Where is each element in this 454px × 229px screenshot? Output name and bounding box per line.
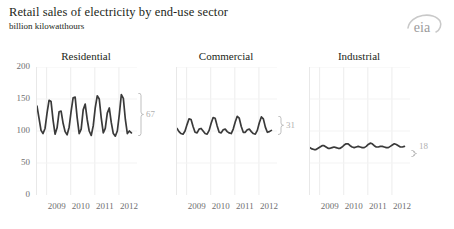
panel-industrial: Industrial182009201020112012 <box>309 50 409 220</box>
ytick-0: 0 <box>4 189 30 199</box>
ytick-50: 50 <box>4 157 30 167</box>
bracket-label-residential: 67 <box>146 109 155 119</box>
eia-logo-mark: eia <box>400 8 446 38</box>
bracket-label-industrial: 18 <box>419 141 428 151</box>
xtick-2011-industrial: 2011 <box>365 201 391 211</box>
xtick-2010-commercial: 2010 <box>208 201 234 211</box>
xtick-2009-industrial: 2009 <box>317 201 343 211</box>
plot-area-industrial <box>309 67 409 195</box>
ytick-100: 100 <box>4 125 30 135</box>
plot-area-commercial <box>176 67 276 195</box>
plot-svg <box>310 67 410 195</box>
xtick-2012-residential: 2012 <box>116 201 142 211</box>
bracket-label-commercial: 31 <box>286 120 295 130</box>
bracket-path <box>411 150 417 157</box>
plot-svg <box>37 67 137 195</box>
bracket-path <box>138 93 144 136</box>
panel-title-residential: Residential <box>36 50 136 62</box>
ytick-200: 200 <box>4 61 30 71</box>
range-bracket-commercial <box>277 116 284 135</box>
xtick-2009-commercial: 2009 <box>184 201 210 211</box>
xtick-2012-industrial: 2012 <box>389 201 415 211</box>
panel-title-industrial: Industrial <box>309 50 409 62</box>
xtick-2012-commercial: 2012 <box>256 201 282 211</box>
plot-svg <box>177 67 277 195</box>
plot-area-residential <box>36 67 136 195</box>
data-line-residential <box>37 95 131 137</box>
chart-subtitle: billion kilowatthours <box>9 21 84 31</box>
xtick-2010-industrial: 2010 <box>341 201 367 211</box>
xtick-2011-residential: 2011 <box>92 201 118 211</box>
page-title: Retail sales of electricity by end-use s… <box>9 5 228 20</box>
eia-logo-text: eia <box>414 20 431 35</box>
panel-title-commercial: Commercial <box>176 50 276 62</box>
eia-logo: eia <box>400 8 446 38</box>
xtick-2009-residential: 2009 <box>44 201 70 211</box>
xtick-2010-residential: 2010 <box>68 201 94 211</box>
data-line-industrial <box>310 143 404 149</box>
range-bracket-residential <box>137 93 144 136</box>
bracket-path <box>278 116 284 135</box>
panel-commercial: Commercial312009201020112012 <box>176 50 276 220</box>
panel-residential: Residential67200920102011201205010015020… <box>36 50 136 220</box>
chart-page: Retail sales of electricity by end-use s… <box>0 0 454 229</box>
data-line-commercial <box>177 116 271 134</box>
ytick-150: 150 <box>4 93 30 103</box>
xtick-2011-commercial: 2011 <box>232 201 258 211</box>
range-bracket-industrial <box>410 143 417 150</box>
